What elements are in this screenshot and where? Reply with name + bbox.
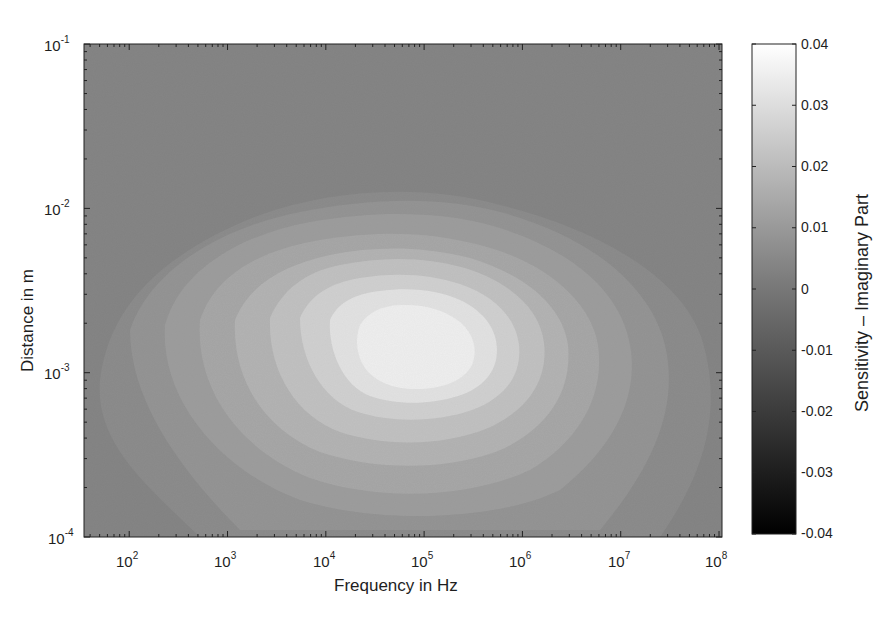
tick-base: 10 <box>44 365 61 382</box>
colorbar-tick-label: 0.04 <box>801 36 828 52</box>
tick-base: 10 <box>44 201 61 218</box>
y-tick-label: 10-3 <box>44 364 70 382</box>
tick-exponent: -1 <box>61 34 70 45</box>
tick-exponent: 2 <box>133 550 139 561</box>
colorbar-tick-label: -0.04 <box>801 525 833 541</box>
x-tick-label: 106 <box>509 552 531 570</box>
tick-exponent: -2 <box>61 198 70 209</box>
plot-area <box>84 44 722 537</box>
x-tick-label: 107 <box>608 552 630 570</box>
colorbar-tick-label: -0.03 <box>801 464 833 480</box>
x-tick-label: 103 <box>214 552 236 570</box>
x-tick-label: 104 <box>313 552 335 570</box>
colorbar-tick-label: 0.02 <box>801 158 828 174</box>
tick-exponent: 3 <box>231 550 237 561</box>
tick-base: 10 <box>313 553 330 570</box>
tick-exponent: 6 <box>526 550 532 561</box>
tick-base: 10 <box>411 553 428 570</box>
tick-base: 10 <box>608 553 625 570</box>
tick-exponent: 8 <box>722 550 728 561</box>
tick-base: 10 <box>214 553 231 570</box>
y-tick-label: 10-2 <box>44 200 70 218</box>
tick-base: 10 <box>48 530 65 547</box>
colorbar-tick-label: 0.01 <box>801 219 828 235</box>
y-tick-label: 10-1 <box>44 36 70 54</box>
tick-base: 10 <box>116 553 133 570</box>
x-tick-label: 102 <box>116 552 138 570</box>
tick-base: 10 <box>509 553 526 570</box>
tick-exponent: -4 <box>65 527 74 538</box>
tick-exponent: 5 <box>428 550 434 561</box>
colorbar-title: Sensitivity – Imaginary Part <box>852 194 873 412</box>
colorbar <box>752 44 796 534</box>
x-tick-label: 105 <box>411 552 433 570</box>
colorbar-tick-label: -0.02 <box>801 403 833 419</box>
colorbar-tick-label: 0 <box>801 281 809 297</box>
tick-exponent: -3 <box>61 362 70 373</box>
figure: 10-1 10-2 10-3 10-4 102 103 104 105 106 … <box>0 0 893 617</box>
contour-plot <box>0 0 893 617</box>
y-tick-label: 10-4 <box>48 529 74 547</box>
tick-exponent: 7 <box>625 550 631 561</box>
y-axis-title: Distance in m <box>18 269 38 372</box>
tick-base: 10 <box>705 553 722 570</box>
tick-base: 10 <box>44 37 61 54</box>
x-tick-label: 108 <box>705 552 727 570</box>
colorbar-tick-label: 0.03 <box>801 97 828 113</box>
x-axis-title: Frequency in Hz <box>334 576 458 596</box>
colorbar-tick-label: -0.01 <box>801 342 833 358</box>
tick-exponent: 4 <box>330 550 336 561</box>
